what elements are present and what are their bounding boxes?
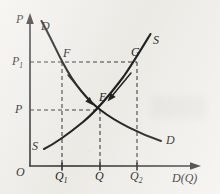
x-tick-label-q: Q: [95, 170, 104, 182]
demand-curve-label-lower: D: [166, 134, 175, 146]
supply-demand-chart: [0, 0, 220, 194]
x-tick-label-q2: Q2: [130, 170, 142, 182]
point-label-f: F: [63, 47, 70, 59]
y-tick-label-p1: P1: [12, 55, 23, 67]
demand-curve-label-upper: D: [41, 20, 50, 32]
arrow-f-to-e-shaft: [68, 75, 89, 100]
demand-curve: [42, 21, 162, 141]
origin-label: O: [16, 166, 25, 178]
supply-curve-label-upper: S: [153, 34, 159, 46]
x-axis-label: D(Q): [172, 172, 197, 184]
x-tick-label-q1: Q1: [55, 170, 67, 182]
y-axis-label: P: [16, 13, 23, 25]
x-axis-arrowhead: [190, 162, 201, 170]
arrow-g-to-e-shaft: [112, 73, 131, 96]
point-label-e: E: [99, 91, 106, 103]
figure-container: P D(Q) O P1 P Q1 Q Q2 D D S S F G E: [0, 0, 220, 194]
y-tick-label-p: P: [15, 103, 22, 115]
y-axis-arrowhead: [26, 13, 34, 24]
supply-curve-label-lower: S: [32, 140, 38, 152]
point-label-g: G: [131, 46, 140, 58]
